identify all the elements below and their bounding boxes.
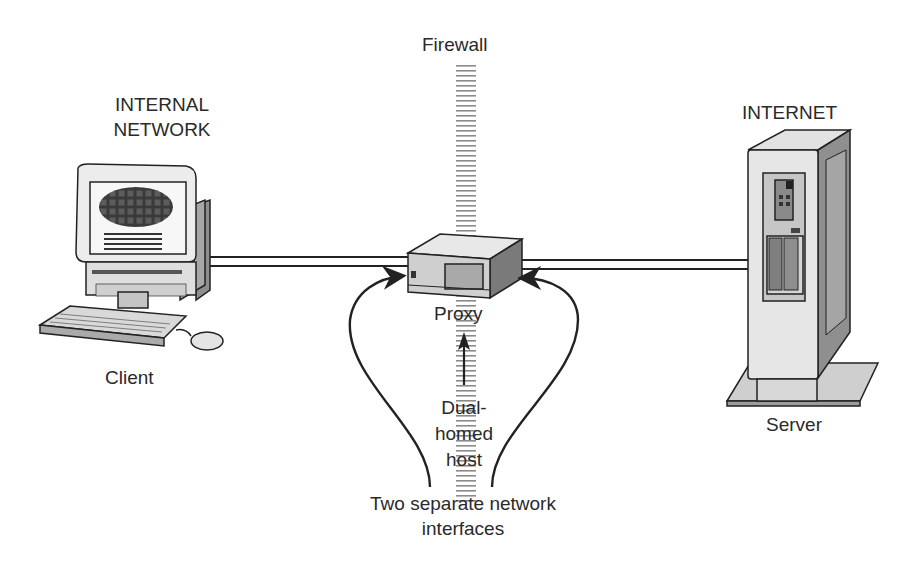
internal-network-zone-label: INTERNAL NETWORK bbox=[92, 92, 232, 142]
tower-server-icon bbox=[727, 130, 878, 406]
client-label: Client bbox=[105, 365, 154, 390]
firewall-label: Firewall bbox=[422, 32, 487, 57]
interfaces-label: Two separate network interfaces bbox=[338, 491, 588, 541]
internal-network-line1: INTERNAL bbox=[92, 92, 232, 117]
dual-homed-host-label: Dual- homed host bbox=[424, 395, 504, 473]
server-label: Server bbox=[766, 412, 822, 437]
desktop-computer-icon bbox=[40, 164, 223, 350]
internal-network-line2: NETWORK bbox=[92, 117, 232, 142]
dual-homed-line2: homed bbox=[424, 421, 504, 447]
link-proxy-server bbox=[512, 260, 748, 269]
proxy-label: Proxy bbox=[434, 301, 483, 326]
network-diagram-canvas bbox=[0, 0, 911, 567]
dual-homed-line3: host bbox=[424, 447, 504, 473]
interfaces-line1: Two separate network bbox=[338, 491, 588, 516]
interfaces-line2: interfaces bbox=[338, 516, 588, 541]
link-client-proxy bbox=[200, 257, 408, 266]
right-interface-arrow bbox=[492, 278, 578, 487]
internet-zone-label: INTERNET bbox=[742, 100, 837, 125]
dual-homed-line1: Dual- bbox=[424, 395, 504, 421]
proxy-box-icon bbox=[408, 234, 522, 298]
left-interface-arrow bbox=[350, 276, 430, 487]
